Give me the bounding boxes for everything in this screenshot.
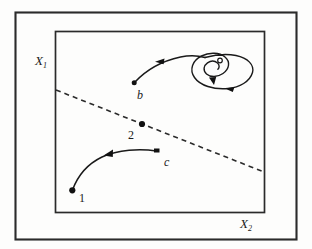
point-1-dot (69, 187, 75, 193)
point-1-label: 1 (79, 191, 85, 205)
point-2-label: 2 (128, 128, 134, 142)
attractor-open-circle (218, 58, 223, 63)
x-axis-label-subscript: 2 (248, 224, 252, 233)
trajectory-b-start-dot (132, 80, 137, 85)
trajectory-b-label: b (137, 88, 143, 102)
trajectory-c-label: c (164, 155, 170, 169)
trajectory-c-end-marker (154, 149, 160, 153)
phase-portrait-diagram: b 2 1 c X1 X2 (0, 0, 312, 249)
y-axis-label-subscript: 1 (43, 61, 47, 70)
point-2-dot (139, 121, 145, 127)
figure-container: b 2 1 c X1 X2 (0, 0, 312, 249)
